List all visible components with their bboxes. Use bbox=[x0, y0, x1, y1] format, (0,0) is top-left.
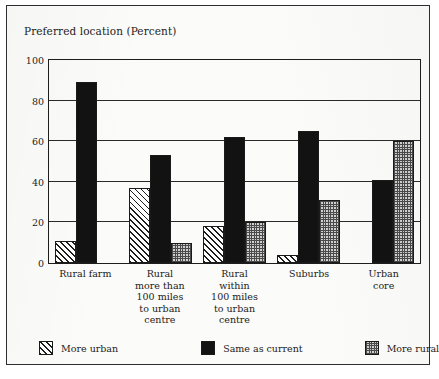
chart-legend: More urbanSame as currentMore rural bbox=[29, 341, 419, 355]
bar[interactable] bbox=[150, 155, 171, 263]
x-axis-label-line: to urban bbox=[123, 303, 198, 315]
bar[interactable] bbox=[372, 180, 393, 263]
x-axis-label-line: core bbox=[346, 280, 421, 292]
chart-title: Preferred location (Percent) bbox=[24, 25, 176, 37]
bar[interactable] bbox=[55, 241, 76, 263]
y-tick-label: 100 bbox=[26, 55, 44, 66]
bar[interactable] bbox=[224, 137, 245, 263]
legend-item[interactable]: More urban bbox=[39, 341, 118, 355]
bar[interactable] bbox=[319, 200, 340, 263]
bar-group-bars bbox=[49, 60, 123, 263]
x-axis-label-line: centre bbox=[123, 314, 198, 326]
x-axis-label-line: Rural bbox=[197, 268, 272, 280]
x-axis-label-line: centre bbox=[197, 314, 272, 326]
bar[interactable] bbox=[171, 243, 192, 263]
x-axis-label-line: to urban bbox=[197, 303, 272, 315]
x-axis-label-line: Rural farm bbox=[48, 268, 123, 280]
bar-group bbox=[49, 60, 123, 263]
bar-group-bars bbox=[272, 60, 346, 263]
y-tick-label: 80 bbox=[32, 95, 44, 106]
legend-item[interactable]: More rural bbox=[365, 341, 439, 355]
x-axis-label-line: Rural bbox=[123, 268, 198, 280]
legend-label: More rural bbox=[387, 343, 439, 354]
y-tick-label: 20 bbox=[32, 217, 44, 228]
x-axis-label-line: 100 miles bbox=[123, 291, 198, 303]
plot-area: 020406080100 bbox=[48, 59, 421, 264]
bar[interactable] bbox=[129, 188, 150, 263]
bar[interactable] bbox=[245, 222, 266, 263]
bar-group bbox=[123, 60, 197, 263]
legend-label: More urban bbox=[61, 343, 118, 354]
x-axis-label: Rural farm bbox=[48, 268, 123, 326]
bar[interactable] bbox=[76, 82, 97, 263]
y-tick-label: 0 bbox=[38, 258, 44, 269]
x-axis-label: Urbancore bbox=[346, 268, 421, 326]
bar-group bbox=[346, 60, 420, 263]
legend-swatch-icon bbox=[201, 341, 215, 355]
legend-swatch-icon bbox=[39, 341, 53, 355]
bar-group-bars bbox=[197, 60, 271, 263]
bar[interactable] bbox=[298, 131, 319, 263]
x-axis-label-line: Urban bbox=[346, 268, 421, 280]
chart-figure: Preferred location (Percent) 02040608010… bbox=[6, 5, 430, 365]
bar[interactable] bbox=[277, 255, 298, 263]
x-axis-label-line: within bbox=[197, 280, 272, 292]
bar-groups bbox=[49, 60, 420, 263]
x-axis-label-line: more than bbox=[123, 280, 198, 292]
x-axis-label: Ruralwithin100 milesto urbancentre bbox=[197, 268, 272, 326]
bar-group-bars bbox=[123, 60, 197, 263]
bar-group-bars bbox=[346, 60, 420, 263]
legend-label: Same as current bbox=[223, 343, 302, 354]
legend-item[interactable]: Same as current bbox=[201, 341, 302, 355]
bar[interactable] bbox=[393, 141, 414, 263]
x-axis-label-line: 100 miles bbox=[197, 291, 272, 303]
x-axis-label: Ruralmore than100 milesto urbancentre bbox=[123, 268, 198, 326]
bar-group bbox=[272, 60, 346, 263]
bar-group bbox=[197, 60, 271, 263]
x-axis-label-line: Suburbs bbox=[272, 268, 347, 280]
x-axis-labels: Rural farmRuralmore than100 milesto urba… bbox=[48, 268, 421, 326]
legend-swatch-icon bbox=[365, 341, 379, 355]
y-tick-label: 60 bbox=[32, 136, 44, 147]
x-axis-label: Suburbs bbox=[272, 268, 347, 326]
y-tick-label: 40 bbox=[32, 176, 44, 187]
bar[interactable] bbox=[203, 226, 224, 263]
